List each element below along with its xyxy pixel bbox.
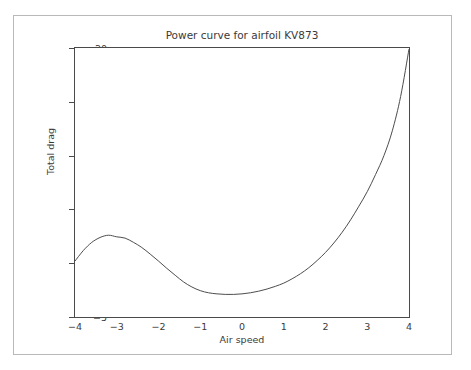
x-axis-label: Air speed — [74, 334, 410, 345]
x-tick-label: 0 — [239, 321, 245, 332]
x-tick-label: 1 — [281, 321, 287, 332]
curve-path — [75, 49, 409, 294]
x-tick-label: −1 — [193, 321, 207, 332]
x-tick-label: −3 — [110, 321, 124, 332]
x-tick-label: 3 — [364, 321, 370, 332]
y-axis-label: Total drag — [45, 112, 56, 192]
x-tick-label: 4 — [406, 321, 412, 332]
figure-frame: Power curve for airfoil KV873 Total drag… — [13, 15, 452, 355]
x-tick-label: −4 — [68, 321, 82, 332]
x-tick-label: 2 — [322, 321, 328, 332]
page-title: Power curve for airfoil KV873 — [74, 29, 410, 41]
x-tick-label: −2 — [151, 321, 165, 332]
data-curve — [75, 48, 409, 317]
